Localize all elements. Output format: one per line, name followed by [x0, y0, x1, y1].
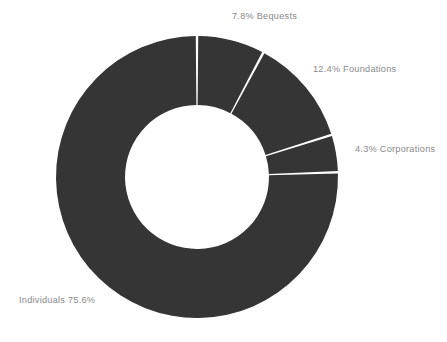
donut-chart-svg [0, 0, 447, 342]
slice-label-individuals: Individuals 75.6% [19, 295, 95, 305]
donut-slices [56, 36, 338, 318]
donut-chart: 7.8% Bequests 12.4% Foundations 4.3% Cor… [0, 0, 447, 342]
slice-label-foundations: 12.4% Foundations [313, 64, 396, 74]
slice-label-corporations: 4.3% Corporations [355, 144, 435, 154]
slice-label-bequests: 7.8% Bequests [232, 11, 297, 21]
